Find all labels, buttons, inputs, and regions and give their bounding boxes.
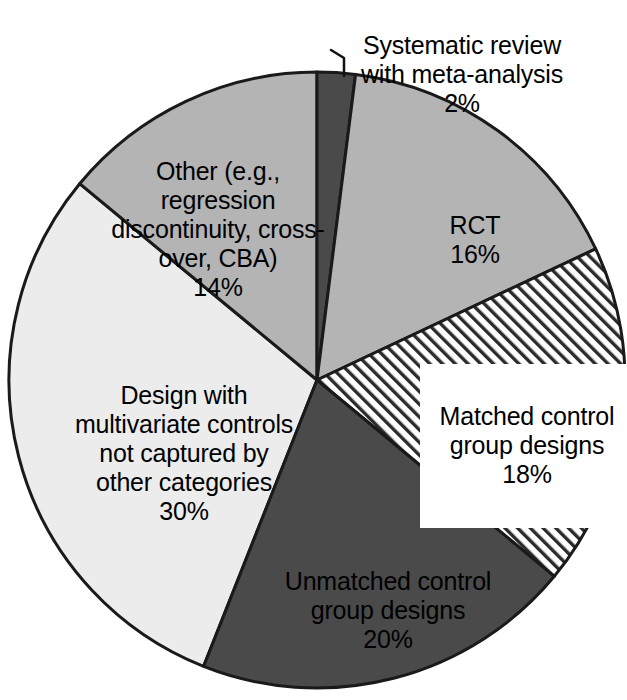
pie-label-rct-text: RCT bbox=[450, 211, 501, 239]
pie-chart-figure: Systematic review with meta-analysis 2% … bbox=[0, 0, 627, 700]
pie-label-systematic-review: Systematic review with meta-analysis 2% bbox=[331, 2, 593, 147]
pie-label-rct-value: 16% bbox=[400, 240, 550, 269]
pie-label-other-designs-text: Other (e.g., regression discontinuity, c… bbox=[111, 157, 324, 272]
pie-label-systematic-review-text: Systematic review with meta-analysis bbox=[361, 31, 563, 88]
pie-label-multivariate-controls-text: Design with multivariate controls not ca… bbox=[75, 381, 293, 496]
pie-label-other-designs-value: 14% bbox=[96, 273, 340, 302]
pie-label-unmatched-control-value: 20% bbox=[272, 625, 504, 654]
pie-label-matched-control: Matched control group designs 18% bbox=[420, 364, 627, 528]
pie-label-unmatched-control-text: Unmatched control group designs bbox=[285, 567, 491, 624]
pie-label-multivariate-controls-value: 30% bbox=[70, 497, 298, 526]
pie-label-matched-control-text: Matched control group designs bbox=[440, 402, 615, 459]
pie-label-systematic-review-value: 2% bbox=[331, 89, 593, 118]
pie-label-rct: RCT 16% bbox=[400, 182, 550, 298]
pie-label-multivariate-controls: Design with multivariate controls not ca… bbox=[70, 352, 298, 555]
pie-label-other-designs: Other (e.g., regression discontinuity, c… bbox=[96, 128, 340, 331]
pie-label-unmatched-control: Unmatched control group designs 20% bbox=[272, 538, 504, 683]
pie-label-matched-control-value: 18% bbox=[432, 460, 622, 489]
